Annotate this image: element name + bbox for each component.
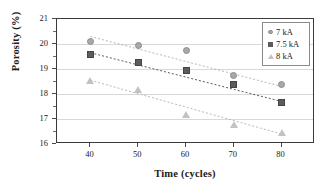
x-tick-label: 60	[170, 149, 200, 159]
y-tick-label: 21	[24, 13, 48, 23]
legend-item: 8 kA	[266, 50, 307, 62]
y-tick-label: 19	[24, 63, 48, 73]
x-tick-mark	[281, 143, 282, 147]
trendline	[90, 80, 281, 134]
y-tick-label: 20	[24, 38, 48, 48]
y-tick-label: 17	[24, 113, 48, 123]
legend-item: 7 kA	[266, 26, 307, 38]
x-tick-label: 40	[74, 149, 104, 159]
legend-marker-circle-icon	[266, 30, 275, 35]
y-axis-title: Porosity (%)	[10, 0, 21, 97]
trendline	[90, 37, 281, 87]
legend-label: 7.5 kA	[275, 39, 299, 49]
y-tick-mark	[52, 143, 56, 144]
x-tick-mark	[89, 143, 90, 147]
triangle-glyph-icon	[268, 54, 274, 59]
x-tick-mark	[185, 143, 186, 147]
chart-legend: 7 kA7.5 kA8 kA	[262, 22, 310, 66]
legend-item: 7.5 kA	[266, 38, 307, 50]
legend-label: 8 kA	[275, 51, 293, 61]
square-glyph-icon	[268, 42, 273, 47]
legend-marker-triangle-icon	[266, 54, 275, 59]
x-tick-mark	[233, 143, 234, 147]
legend-marker-square-icon	[266, 42, 275, 47]
x-tick-label: 80	[266, 149, 296, 159]
x-tick-label: 50	[122, 149, 152, 159]
circle-glyph-icon	[268, 30, 273, 35]
x-tick-mark	[137, 143, 138, 147]
legend-label: 7 kA	[275, 27, 293, 37]
chart-screenshot: Porosity (%) 161718192021 4050607080 Tim…	[0, 0, 328, 187]
trendline	[90, 53, 281, 102]
x-axis-title: Time (cycles)	[56, 168, 314, 179]
x-tick-label: 70	[218, 149, 248, 159]
y-tick-label: 18	[24, 88, 48, 98]
y-tick-label: 16	[24, 138, 48, 148]
